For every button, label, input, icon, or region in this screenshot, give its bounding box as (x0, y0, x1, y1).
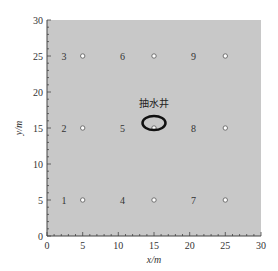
observation-point-6 (152, 54, 156, 58)
observation-point-8 (223, 126, 227, 130)
point-label-3: 3 (62, 51, 67, 62)
point-label-4: 4 (120, 195, 125, 206)
x-axis-title: x/m (146, 254, 161, 265)
y-axis-title: y/m (13, 121, 24, 136)
y-tick-label: 0 (38, 231, 43, 242)
x-tick-label: 0 (45, 240, 50, 251)
observation-point-1 (81, 198, 85, 202)
x-tick-label: 30 (256, 240, 266, 251)
point-label-5: 5 (120, 123, 125, 134)
x-tick-label: 5 (80, 240, 85, 251)
x-tick-labels: 0 5 10 15 20 25 30 (45, 240, 267, 251)
y-tick-label: 20 (33, 87, 43, 98)
y-tick-label: 10 (33, 159, 43, 170)
observation-point-7 (223, 198, 227, 202)
y-tick-label: 25 (33, 51, 43, 62)
pumping-well-label: 抽水井 (139, 97, 169, 109)
point-label-7: 7 (191, 195, 196, 206)
point-label-9: 9 (191, 51, 196, 62)
point-label-1: 1 (62, 195, 67, 206)
x-tick-label: 10 (113, 240, 123, 251)
observation-point-3 (81, 54, 85, 58)
point-label-6: 6 (120, 51, 125, 62)
observation-point-9 (223, 54, 227, 58)
y-tick-labels: 0 5 10 15 20 25 30 (33, 15, 43, 242)
observation-point-2 (81, 126, 85, 130)
point-label-2: 2 (62, 123, 67, 134)
x-tick-label: 15 (149, 240, 159, 251)
point-label-8: 8 (191, 123, 196, 134)
y-tick-label: 5 (38, 195, 43, 206)
y-tick-label: 30 (33, 15, 43, 26)
x-tick-label: 20 (185, 240, 195, 251)
observation-point-4 (152, 198, 156, 202)
x-tick-label: 25 (220, 240, 230, 251)
observation-well-layout-chart: 0 5 10 15 20 25 30 0 5 10 15 20 25 30 x/… (0, 0, 278, 271)
y-tick-label: 15 (33, 123, 43, 134)
